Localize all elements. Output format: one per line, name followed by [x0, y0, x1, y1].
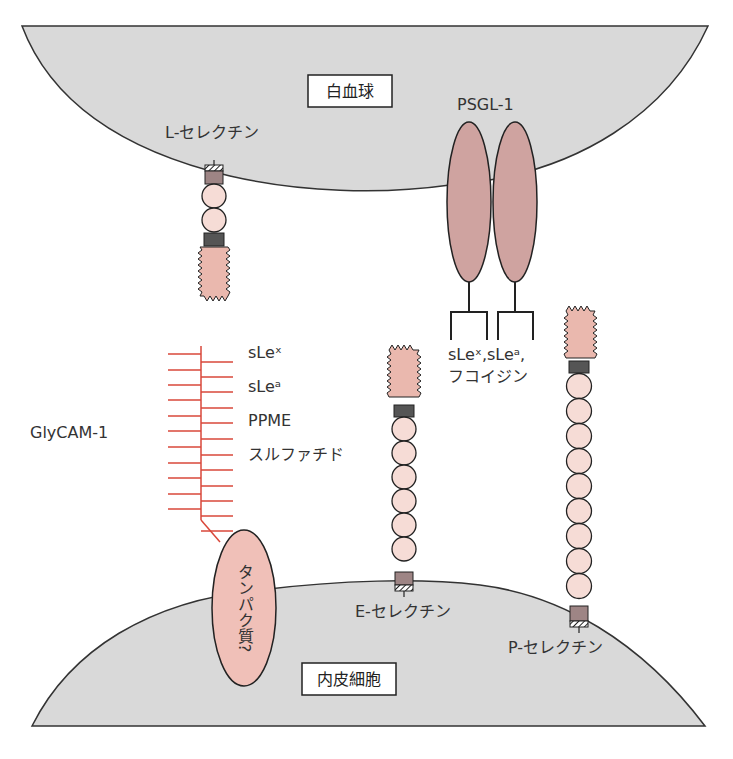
- psgl-1-label: PSGL-1: [457, 95, 514, 114]
- leukocyte-cell: [22, 26, 708, 191]
- glycam-ligand-slex: sLeˣ: [248, 343, 282, 362]
- p-selectin-label: P-セレクチン: [508, 638, 603, 657]
- e-selectin: E-セレクチン: [355, 345, 451, 621]
- leukocyte-label-box: 白血球: [308, 75, 392, 107]
- glycam-protein-label: タンパク質?: [235, 564, 254, 653]
- glycam-1-label: GlyCAM-1: [30, 423, 108, 442]
- psgl-1-ligands-line2: フコイジン: [448, 367, 528, 386]
- l-selectin-label: L-セレクチン: [165, 123, 259, 142]
- selectin-diagram: 白血球 内皮細胞 L-セレクチン PSGL-1 sLeˣ,sLeᵃ, フコイジン…: [0, 0, 733, 759]
- glycam-ligand-sulfatide: スルファチド: [248, 445, 344, 464]
- glycam-ligand-ppme: PPME: [248, 411, 291, 430]
- leukocyte-label: 白血球: [326, 82, 374, 101]
- e-selectin-label: E-セレクチン: [355, 602, 451, 621]
- endothelial-label-box: 内皮細胞: [302, 663, 396, 695]
- endothelial-label: 内皮細胞: [317, 670, 381, 689]
- psgl-1-ligands-line1: sLeˣ,sLeᵃ,: [448, 345, 525, 364]
- glycam-ligand-slea: sLeᵃ: [248, 377, 281, 396]
